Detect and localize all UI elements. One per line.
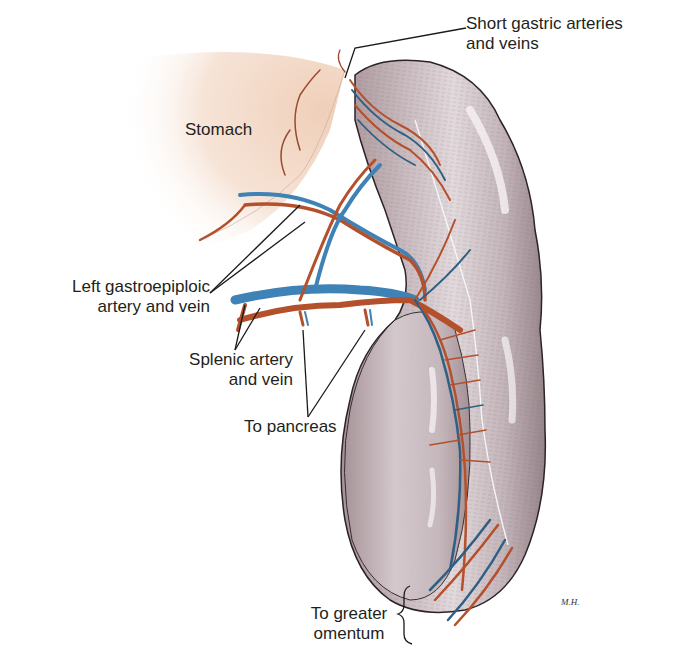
label-short-gastric: Short gastric arteries and veins [466,14,623,54]
illustration [0,0,688,664]
stomach [120,52,345,250]
label-to-pancreas: To pancreas [244,417,337,437]
artist-signature: M.H. [561,597,580,607]
spleen-anatomy-diagram: Short gastric arteries and veins Stomach… [0,0,688,664]
spleen [341,60,545,612]
leader-to-pancreas-1 [303,330,308,417]
label-stomach: Stomach [185,120,252,140]
label-left-gastroepiploic: Left gastroepiploic artery and vein [22,277,210,317]
label-to-greater-omentum: To greater omentum [300,604,398,644]
leader-splenic-1 [235,305,245,350]
label-splenic: Splenic artery and vein [155,350,293,390]
